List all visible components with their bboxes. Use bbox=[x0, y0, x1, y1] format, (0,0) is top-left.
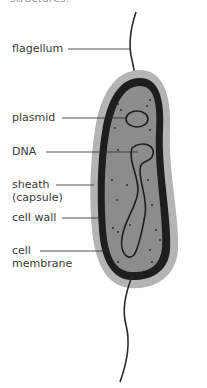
label-cell-wall: cell wall bbox=[12, 211, 56, 224]
label-sheath: sheath bbox=[12, 178, 50, 191]
label-cell: cell bbox=[12, 244, 31, 257]
label-capsule: (capsule) bbox=[12, 191, 63, 204]
flagellum-bottom bbox=[120, 276, 132, 382]
label-dna: DNA bbox=[12, 145, 36, 158]
label-membrane: membrane bbox=[12, 257, 72, 270]
label-plasmid: plasmid bbox=[12, 111, 55, 124]
label-flagellum: flagellum bbox=[12, 42, 63, 55]
